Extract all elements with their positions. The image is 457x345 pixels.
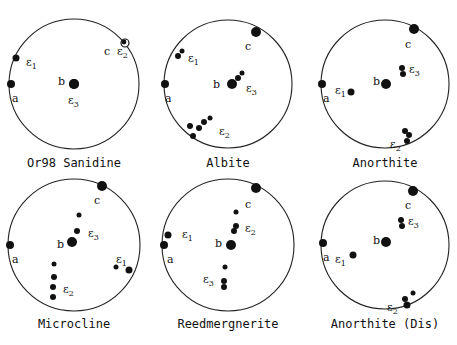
data-point: [201, 119, 207, 125]
data-point: [221, 284, 227, 290]
data-point: [226, 240, 236, 250]
axis-label: ε2: [390, 138, 401, 153]
axis-label: ε3: [88, 227, 99, 242]
axis-label: ε3: [246, 82, 257, 97]
axis-label: b: [57, 238, 64, 251]
stereonet-panel: cε3baε1ε2: [6, 179, 140, 311]
data-point: [398, 217, 404, 223]
caption-reedmergnerite: Reedmergnerite: [177, 317, 278, 331]
data-point: [6, 241, 14, 249]
data-point: [175, 53, 181, 59]
axis-label: ε2: [245, 222, 256, 237]
stereonet-panel: ε1cε2baε3: [7, 19, 139, 149]
axis-label: ε1: [26, 56, 37, 71]
data-point: [404, 302, 411, 309]
axis-label: c: [104, 45, 110, 58]
data-point: [50, 294, 56, 300]
data-point: [160, 241, 168, 249]
data-point: [180, 49, 185, 54]
axis-label: a: [323, 92, 330, 105]
data-point: [350, 252, 357, 259]
axis-label: ε1: [335, 84, 346, 99]
caption-anorthite-dis: Anorthite (Dis): [331, 317, 439, 331]
data-point: [251, 27, 261, 37]
caption-or98-sanidine: Or98 Sanidine: [27, 156, 121, 170]
data-point: [50, 284, 56, 290]
axis-label: c: [405, 199, 411, 212]
data-point: [51, 274, 57, 280]
axis-label: ε2: [219, 125, 230, 140]
data-point: [409, 24, 419, 34]
stereonet-panel: cε3baε1ε2: [319, 181, 449, 316]
data-point: [161, 80, 169, 88]
stereonet-panel: cε2ε1baε3: [160, 179, 294, 311]
axis-label: ε3: [408, 215, 419, 230]
axis-label: ε2: [63, 283, 74, 298]
axis-label: b: [215, 237, 222, 250]
axis-label: b: [373, 234, 380, 247]
data-point: [67, 237, 77, 247]
data-point: [381, 237, 391, 247]
axis-label: c: [94, 194, 100, 207]
axis-label: c: [245, 40, 251, 53]
axis-label: ε1: [335, 253, 346, 268]
data-point: [165, 232, 172, 239]
stereonet-panel: cε3bε1aε2: [318, 20, 449, 153]
axis-label: b: [213, 78, 220, 91]
data-point: [240, 71, 245, 76]
axis-label: a: [165, 92, 172, 105]
stereonet-panel: cε1bε3aε2: [161, 20, 292, 148]
data-point: [404, 138, 410, 144]
data-point: [69, 79, 79, 89]
data-point: [235, 75, 241, 81]
axis-label: c: [405, 38, 411, 51]
data-point: [77, 213, 82, 218]
data-point: [399, 65, 405, 71]
data-point: [208, 116, 213, 121]
data-point: [196, 125, 202, 131]
axis-label: a: [323, 251, 330, 264]
data-point: [122, 40, 127, 45]
axis-label: b: [373, 75, 380, 88]
axis-label: ε1: [116, 253, 127, 268]
axis-label: b: [58, 75, 65, 88]
caption-anorthite: Anorthite: [352, 156, 417, 170]
data-point: [406, 132, 412, 138]
data-point: [318, 80, 326, 88]
axis-label: a: [167, 253, 174, 266]
data-point: [231, 228, 237, 234]
axis-label: ε1: [188, 52, 199, 67]
data-point: [400, 71, 406, 77]
data-point: [187, 123, 193, 129]
data-point: [251, 183, 261, 193]
data-point: [221, 278, 227, 284]
data-point: [227, 79, 237, 89]
caption-microcline: Microcline: [38, 317, 110, 331]
data-point: [223, 265, 228, 270]
data-point: [408, 186, 418, 196]
axis-label: c: [245, 198, 251, 211]
data-point: [348, 89, 355, 96]
data-point: [381, 79, 391, 89]
data-point: [97, 181, 107, 191]
data-point: [190, 133, 196, 139]
data-point: [7, 80, 15, 88]
axis-label: a: [12, 92, 19, 105]
axis-label: ε3: [68, 94, 79, 109]
axis-label: ε1: [182, 228, 193, 243]
caption-albite: Albite: [206, 156, 249, 170]
data-point: [74, 228, 80, 234]
axis-label: ε3: [409, 63, 420, 78]
data-point: [52, 262, 57, 267]
data-point: [411, 291, 416, 296]
data-point: [319, 239, 327, 247]
axis-label: a: [12, 253, 19, 266]
data-point: [234, 210, 239, 215]
stereonet-figure: ε1cε2baε3cε1bε3aε2cε3bε1aε2cε3baε1ε2cε2ε…: [0, 0, 457, 345]
data-point: [13, 55, 20, 62]
data-point: [402, 296, 408, 302]
data-point: [399, 223, 405, 229]
axis-label: ε2: [387, 301, 398, 316]
axis-label: ε3: [203, 273, 214, 288]
